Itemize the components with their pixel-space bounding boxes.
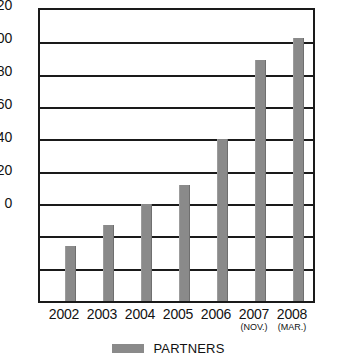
x-axis-tick-2008: 2008 (MAR.) [269, 307, 315, 333]
bar-2005 [179, 185, 190, 301]
x-axis-tick-label: 2007 [239, 306, 269, 322]
y-axis-tick-label: 80 [0, 64, 12, 78]
bars-layer [40, 10, 313, 301]
legend-swatch-partners [112, 344, 144, 353]
bar-2008 [293, 38, 304, 302]
bar-2002 [65, 246, 76, 301]
bar-2006 [217, 139, 228, 301]
y-axis-tick-label: 0 [0, 196, 12, 210]
y-axis-tick-label: 20 [0, 163, 12, 177]
y-axis-tick-label: 60 [0, 97, 12, 111]
x-axis-tick-label: 2006 [201, 306, 231, 322]
x-axis-tick-label: 2003 [87, 306, 117, 322]
y-axis-tick-label: 40 [0, 130, 12, 144]
legend-label-partners: PARTNERS [153, 342, 224, 355]
x-axis-tick-label: 2002 [49, 306, 79, 322]
chart-legend: PARTNERS [0, 342, 337, 355]
bar-chart: 0 20 40 60 80 100 120 140 160 [0, 0, 337, 363]
bar-2004 [141, 204, 152, 301]
bar-2003 [103, 225, 114, 301]
plot-area [38, 8, 315, 303]
x-axis-tick-label: 2004 [125, 306, 155, 322]
y-axis-tick-label: 120 [0, 0, 12, 12]
bar-2007 [255, 60, 266, 301]
x-axis-tick-label: 2008 [277, 306, 307, 322]
x-axis-tick-sublabel: (MAR.) [269, 322, 315, 333]
y-axis-tick-label: 100 [0, 31, 12, 45]
x-axis-tick-label: 2005 [163, 306, 193, 322]
